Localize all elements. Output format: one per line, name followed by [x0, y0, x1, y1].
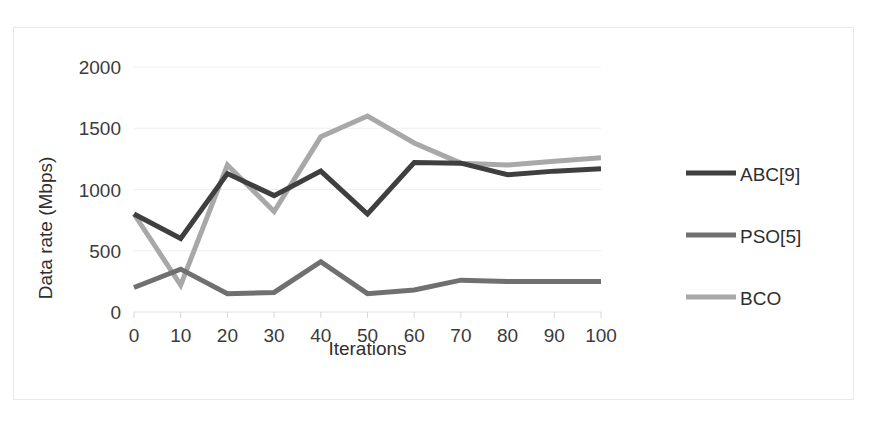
y-axis-tick-label: 0 [110, 302, 121, 323]
chart-container: 0500100015002000 0102030405060708090100 … [13, 27, 854, 400]
y-axis-tick-label: 1500 [79, 118, 121, 139]
x-axis-title: Iterations [328, 338, 406, 359]
x-axis-tick-label: 70 [450, 325, 471, 346]
y-axis-title: Data rate (Mbps) [35, 157, 56, 300]
data-series-group [134, 116, 601, 294]
x-axis-tick-label: 60 [404, 325, 425, 346]
x-axis-tick-label: 100 [585, 325, 617, 346]
x-axis-tick-label: 0 [129, 325, 140, 346]
legend-label-abc-9[interactable]: ABC[9] [740, 164, 800, 185]
y-axis-tick-label: 1000 [79, 180, 121, 201]
legend-label-pso-5[interactable]: PSO[5] [740, 226, 801, 247]
x-axis-tick-label: 20 [217, 325, 238, 346]
x-axis-tick-label: 30 [264, 325, 285, 346]
x-axis-tick-label: 90 [544, 325, 565, 346]
y-axis-tick-labels: 0500100015002000 [79, 57, 121, 323]
y-axis-tick-label: 500 [89, 241, 121, 262]
axis-tickmarks [134, 312, 601, 318]
legend-label-bco[interactable]: BCO [740, 288, 781, 309]
y-axis-tick-label: 2000 [79, 57, 121, 78]
line-chart: 0500100015002000 0102030405060708090100 … [14, 28, 855, 401]
series-line-pso-5 [134, 262, 601, 294]
chart-legend: ABC[9]PSO[5]BCO [686, 164, 801, 309]
x-axis-tick-label: 10 [170, 325, 191, 346]
gridlines [134, 67, 601, 312]
series-line-bco [134, 116, 601, 285]
x-axis-tick-label: 80 [497, 325, 518, 346]
